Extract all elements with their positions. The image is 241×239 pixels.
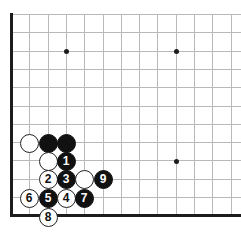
stone-move-number: 3 [63,173,70,185]
grid-line-horizontal [11,14,241,15]
stone-move-number: 1 [63,155,70,167]
stone-white[interactable] [75,170,94,189]
stone-move-number: 8 [45,211,52,223]
grid-line-vertical [194,14,195,215]
stone-move-9[interactable]: 9 [94,170,113,189]
star-point [64,49,69,54]
stone-move-4[interactable]: 4 [57,189,76,208]
stone-move-number: 5 [45,192,52,204]
stone-move-number: 6 [26,192,33,204]
stone-black[interactable] [57,134,76,153]
stone-white[interactable] [20,134,39,153]
board-edge-left [10,13,13,217]
star-point [174,49,179,54]
stone-black[interactable] [39,134,58,153]
grid-line-horizontal [11,51,241,52]
stone-white[interactable] [39,152,58,171]
grid-line-vertical [139,14,140,215]
star-point [174,159,179,164]
stone-move-2[interactable]: 2 [39,170,58,189]
stone-move-3[interactable]: 3 [57,170,76,189]
stone-move-number: 2 [45,173,52,185]
stone-move-number: 7 [81,192,88,204]
grid-line-horizontal [11,69,241,70]
go-board-diagram: 123965478 [0,0,241,239]
grid-line-vertical [157,14,158,215]
grid-line-vertical [212,14,213,215]
stone-move-number: 9 [100,173,107,185]
grid-line-horizontal [11,32,241,33]
goban-grid[interactable]: 123965478 [0,0,241,239]
grid-line-vertical [231,14,232,215]
grid-line-vertical [121,14,122,215]
stone-move-8[interactable]: 8 [39,208,58,227]
stone-move-6[interactable]: 6 [20,189,39,208]
grid-line-horizontal [11,87,241,88]
stone-move-number: 4 [63,192,70,204]
stone-move-7[interactable]: 7 [75,189,94,208]
stone-move-1[interactable]: 1 [57,152,76,171]
grid-line-vertical [176,14,177,215]
grid-line-horizontal [11,124,241,125]
grid-line-horizontal [11,106,241,107]
stone-move-5[interactable]: 5 [39,189,58,208]
grid-line-vertical [29,14,30,215]
